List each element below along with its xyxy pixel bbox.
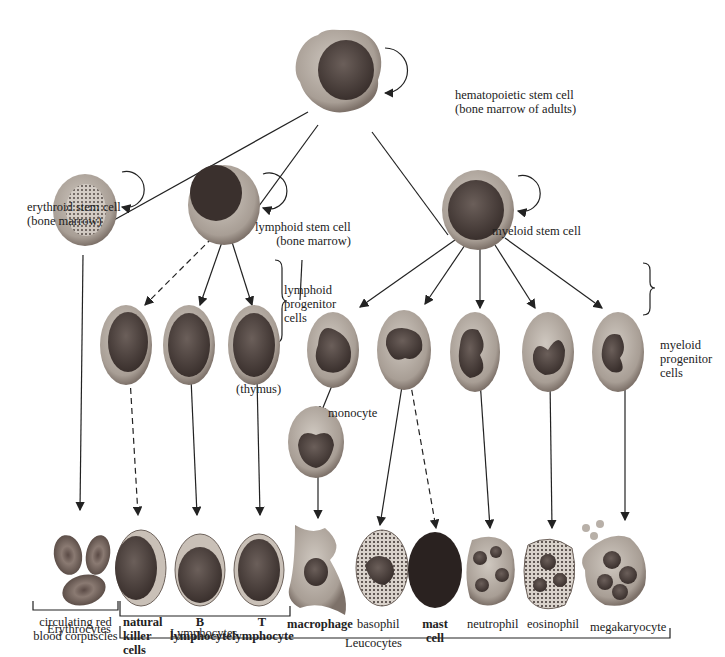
lymphocytes-group-label: Lymphocytes [170,626,237,640]
label-line: hematopoietic stem cell [455,88,576,102]
basophil-label: basophil [357,617,399,631]
label-line: cells [284,311,336,325]
label-line: natural [123,615,163,629]
label-line: lymphoid stem cell [255,220,351,234]
erythrocytes-group-label: Erythrocytes [47,622,111,636]
macrophage-label: macrophage [287,617,353,631]
eosinophil-label: eosinophil [527,617,579,631]
leucocytes-group-label: Leucocytes [345,636,402,650]
megakaryocyte-label: megakaryocyte [590,620,666,634]
label-line: lymphocyte [232,629,292,643]
myeloid-stem-cell [442,170,514,250]
nk-label: natural killer cells [123,615,163,657]
label-line: erythroid stem cell [27,200,121,214]
myeloid-label: myeloid stem cell [492,224,581,238]
label-line: killer [123,629,163,643]
label-line: progenitor [660,352,712,366]
label-line: (bone marrow) [255,234,351,248]
label-line: cell [410,631,460,645]
thymus-label: (thymus) [236,382,281,396]
label-line: mast [410,617,460,631]
neutrophil-label: neutrophil [467,617,518,631]
label-line: T [232,615,292,629]
t-lymphocyte-label: T lymphocyte [232,615,292,643]
lymphoid-progenitor-label: lymphoid progenitor cells [284,283,336,325]
mature-cells [51,520,646,615]
myeloid-progenitor-label: myeloid progenitor cells [660,338,712,380]
label-line: progenitor [284,297,336,311]
label-line: (bone marrow) [27,214,121,228]
erythroid-label: erythroid stem cell (bone marrow) [27,200,121,228]
label-line: cells [123,643,163,657]
label-line: (bone marrow of adults) [455,102,576,116]
hsc-label: hematopoietic stem cell (bone marrow of … [455,88,576,116]
lymphoid-stem-cell [188,165,260,245]
lymphoid-label: lymphoid stem cell (bone marrow) [255,220,351,248]
label-line: myeloid [660,338,712,352]
hematopoietic-stem-cell [296,30,382,113]
monocyte-label: monocyte [328,406,377,420]
progenitor-cells [100,305,644,478]
label-line: lymphoid [284,283,336,297]
label-line: cells [660,366,712,380]
mast-cell-label: mast cell [410,617,460,645]
